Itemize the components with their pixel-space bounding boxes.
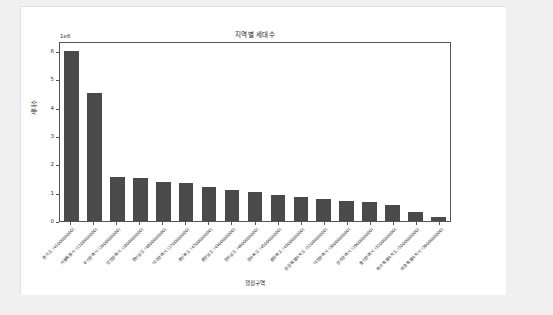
- bar-slot: [244, 43, 267, 221]
- x-axis-tick-mark: [139, 222, 140, 225]
- bar[interactable]: [431, 217, 446, 221]
- bar[interactable]: [110, 177, 125, 221]
- x-axis-tick-mark: [324, 222, 325, 225]
- x-axis-tick-mark: [278, 222, 279, 225]
- bar[interactable]: [87, 93, 102, 221]
- bar-slot: [335, 43, 358, 221]
- x-axis-tick-mark: [208, 222, 209, 225]
- y-axis-tick-label: 2: [51, 161, 55, 167]
- bar-slot: [106, 43, 129, 221]
- bar-slot: [83, 43, 106, 221]
- x-axis-tick-mark: [231, 222, 232, 225]
- y-axis-tick-label: 6: [51, 48, 55, 54]
- x-axis-label: 행정구역: [59, 279, 451, 287]
- bar-slot: [312, 43, 335, 221]
- chart-figure: 지역별 세대수 1e6 세대수 0123456 경기도 (4100000000)…: [21, 7, 506, 295]
- bar-slot: [221, 43, 244, 221]
- bar[interactable]: [339, 201, 354, 221]
- chart-title: 지역별 세대수: [59, 29, 451, 39]
- bar-slot: [198, 43, 221, 221]
- x-axis-tick-mark: [301, 222, 302, 225]
- y-axis-tick-label: 1: [51, 190, 55, 196]
- x-axis-tick-mark: [162, 222, 163, 225]
- bar-slot: [129, 43, 152, 221]
- x-axis-tick-mark: [93, 222, 94, 225]
- bar-slot: [427, 43, 450, 221]
- x-axis-tick-mark: [416, 222, 417, 225]
- bar[interactable]: [133, 178, 148, 221]
- bar[interactable]: [408, 212, 423, 221]
- y-axis-ticks: 0123456: [21, 42, 59, 222]
- y-axis-tick-label: 4: [51, 105, 55, 111]
- bar-slot: [60, 43, 83, 221]
- y-axis-tick-label: 5: [51, 76, 55, 82]
- y-axis-tick-label: 0: [51, 218, 55, 224]
- bar-slot: [289, 43, 312, 221]
- bar[interactable]: [64, 51, 79, 221]
- y-axis-tick-label: 3: [51, 133, 55, 139]
- bar[interactable]: [202, 187, 217, 221]
- x-axis-tick-labels: 경기도 (4100000000)서울특별시 (1100000000)부산광역시 …: [59, 226, 451, 278]
- page-card: 지역별 세대수 1e6 세대수 0123456 경기도 (4100000000)…: [20, 6, 505, 294]
- bar-slot: [266, 43, 289, 221]
- bar[interactable]: [225, 190, 240, 221]
- x-label-slot: 세종특별자치시 (3600000000): [428, 226, 451, 278]
- bar[interactable]: [271, 195, 286, 221]
- bar-slot: [175, 43, 198, 221]
- bar[interactable]: [316, 199, 331, 221]
- x-axis-tick-mark: [116, 222, 117, 225]
- bar[interactable]: [248, 192, 263, 221]
- bar-slot: [152, 43, 175, 221]
- plot-area: [59, 42, 451, 222]
- bar-slot: [381, 43, 404, 221]
- bar[interactable]: [362, 202, 377, 221]
- bar-slot: [404, 43, 427, 221]
- x-axis-tick-mark: [370, 222, 371, 225]
- x-axis-tick-mark: [255, 222, 256, 225]
- y-axis-offset-text: 1e6: [60, 33, 70, 39]
- bar[interactable]: [156, 182, 171, 221]
- bar[interactable]: [179, 183, 194, 221]
- bars-container: [60, 43, 450, 221]
- x-axis-tick-mark: [347, 222, 348, 225]
- bar[interactable]: [385, 205, 400, 221]
- bar[interactable]: [294, 197, 309, 221]
- x-axis-tick-mark: [393, 222, 394, 225]
- bar-slot: [358, 43, 381, 221]
